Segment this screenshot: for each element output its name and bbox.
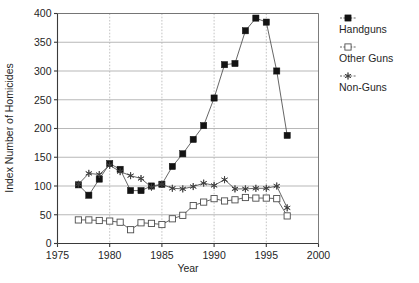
y-tick-label: 100: [34, 180, 52, 192]
y-tick-label: 250: [34, 94, 52, 106]
data-point: [96, 217, 102, 223]
data-point: [274, 196, 280, 202]
data-point: [232, 197, 238, 203]
data-point: [86, 192, 92, 198]
y-tick-label: 200: [34, 122, 52, 134]
y-tick-label: 350: [34, 36, 52, 48]
homicide-index-chart: 050100150200250300350400 197519801985199…: [0, 0, 419, 283]
legend: HandgunsOther GunsNon-Guns: [339, 15, 393, 93]
y-tick-label: 150: [34, 151, 52, 163]
data-point: [242, 28, 248, 34]
legend-label: Non-Guns: [339, 81, 387, 93]
data-point: [201, 123, 207, 129]
data-point: [169, 216, 175, 222]
data-point: [169, 163, 175, 169]
data-point: [253, 15, 259, 21]
data-point: [180, 212, 186, 218]
legend-label: Handguns: [339, 23, 387, 35]
y-tick-label: 50: [40, 209, 52, 221]
chart-svg: 050100150200250300350400 197519801985199…: [0, 0, 419, 283]
data-point: [190, 202, 196, 208]
data-point: [242, 194, 248, 200]
data-point: [232, 60, 238, 66]
data-point: [148, 220, 154, 226]
data-point: [221, 198, 227, 204]
data-point: [263, 195, 269, 201]
x-tick-label: 2000: [307, 249, 331, 261]
data-point: [138, 188, 144, 194]
data-point: [127, 227, 133, 233]
data-point: [284, 132, 290, 138]
data-point: [138, 220, 144, 226]
legend-marker-open-square: [345, 44, 351, 50]
legend-marker-filled-square: [345, 15, 351, 21]
data-point: [86, 217, 92, 223]
x-tick-label: 1980: [98, 249, 122, 261]
data-point: [274, 68, 280, 74]
data-point: [107, 218, 113, 224]
data-point: [211, 196, 217, 202]
x-tick-label: 1985: [150, 249, 174, 261]
data-point: [201, 199, 207, 205]
y-tick-label: 300: [34, 65, 52, 77]
legend-label: Other Guns: [339, 52, 393, 64]
data-point: [127, 188, 133, 194]
data-point: [159, 221, 165, 227]
y-axis-title: Index Number of Homicides: [3, 63, 15, 193]
data-point: [75, 217, 81, 223]
x-tick-label: 1975: [46, 249, 70, 261]
data-point: [284, 213, 290, 219]
x-axis-title: Year: [177, 262, 199, 274]
x-tick-label: 1990: [202, 249, 226, 261]
data-point: [221, 62, 227, 68]
x-tick-label: 1995: [255, 249, 279, 261]
data-point: [253, 195, 259, 201]
data-point: [117, 219, 123, 225]
data-point: [211, 95, 217, 101]
data-point: [180, 151, 186, 157]
data-point: [263, 19, 269, 25]
data-point: [190, 136, 196, 142]
y-tick-label: 400: [34, 7, 52, 19]
y-tick-label: 0: [46, 237, 52, 249]
